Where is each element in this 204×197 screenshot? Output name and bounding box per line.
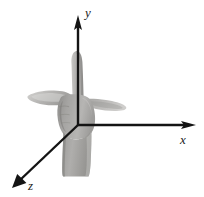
axis-z <box>12 125 78 188</box>
axis-label-z: z <box>28 179 33 192</box>
coordinate-axes <box>0 0 204 197</box>
axis-label-x: x <box>180 133 186 146</box>
right-hand-rule-figure: y x z <box>0 0 204 197</box>
axis-y <box>74 15 82 125</box>
axis-label-y: y <box>85 6 91 19</box>
axis-x <box>78 121 196 129</box>
